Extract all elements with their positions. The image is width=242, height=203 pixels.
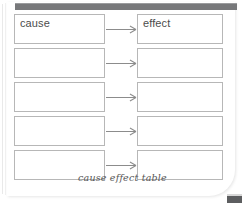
worksheet-card: cause effect: [7, 2, 235, 196]
arrow-head: [130, 161, 136, 170]
row-arrow-3: [106, 93, 136, 102]
table-cell-cause-1[interactable]: cause: [14, 14, 105, 44]
row-arrow-1: [106, 25, 136, 34]
row-arrow-2: [106, 59, 136, 68]
arrow-head: [130, 25, 136, 34]
table-cell-effect-4[interactable]: [137, 116, 223, 146]
arrow-head: [130, 59, 136, 68]
table-cell-effect-3[interactable]: [137, 82, 223, 112]
row-arrow-5: [106, 161, 136, 170]
corner-tab: [227, 196, 242, 203]
table-cell-cause-4[interactable]: [14, 116, 105, 146]
cell-label: effect: [143, 17, 170, 30]
arrow-head: [130, 127, 136, 136]
table-cell-effect-2[interactable]: [137, 48, 223, 78]
cell-label: cause: [20, 17, 50, 30]
table-cell-effect-1[interactable]: effect: [137, 14, 223, 44]
table-cell-cause-3[interactable]: [14, 82, 105, 112]
table-cell-cause-2[interactable]: [14, 48, 105, 78]
page-left-edge-line-secondary: [5, 3, 6, 195]
figure-caption: cause effect table: [7, 172, 238, 184]
row-arrow-4: [106, 127, 136, 136]
page-left-edge-line: [2, 4, 3, 194]
page-canvas: cause effect: [0, 0, 242, 203]
arrow-head: [130, 93, 136, 102]
